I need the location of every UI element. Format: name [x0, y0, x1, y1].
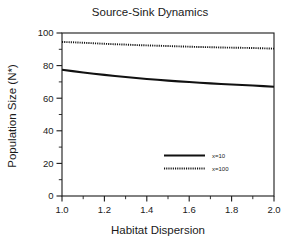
x-axis-label: Habitat Dispersion — [111, 224, 205, 236]
legend-label-x100: x=100 — [212, 166, 229, 172]
y-tick-label: 100 — [38, 27, 54, 38]
x-tick-label: 1.4 — [140, 204, 153, 215]
x-tick-label: 1.6 — [183, 204, 196, 215]
y-tick-label: 20 — [43, 158, 54, 169]
x-tick-label: 1.8 — [225, 204, 238, 215]
chart-figure: Source-Sink Dynamics Population Size (N*… — [0, 0, 300, 246]
x-tick-label: 2.0 — [267, 204, 280, 215]
x-tick-label: 1.2 — [98, 204, 111, 215]
y-tick-label: 60 — [43, 93, 54, 104]
y-axis-label: Population Size (N*) — [6, 64, 18, 168]
y-tick-label: 40 — [43, 125, 54, 136]
chart-title: Source-Sink Dynamics — [92, 6, 209, 18]
y-tick-label: 80 — [43, 60, 54, 71]
source-sink-dynamics-line-chart: Source-Sink Dynamics Population Size (N*… — [0, 0, 300, 246]
x-tick-label: 1.0 — [55, 204, 68, 215]
legend-label-x10: x=10 — [212, 153, 226, 159]
y-tick-label: 0 — [48, 190, 53, 201]
